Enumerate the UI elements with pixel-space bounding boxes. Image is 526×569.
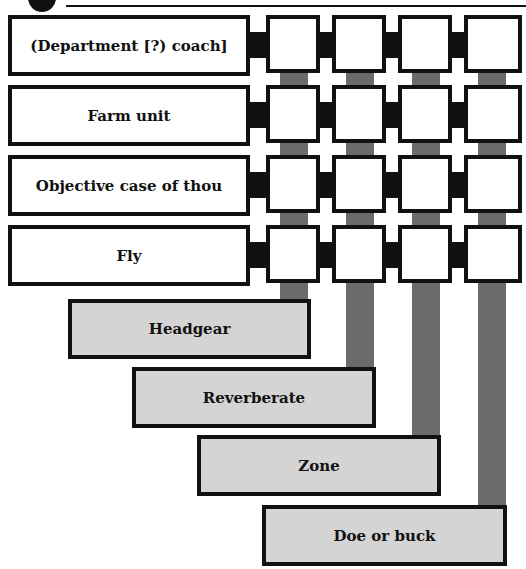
across-clue-2: Farm unit: [8, 85, 250, 146]
grid-cell-1-2[interactable]: [332, 15, 386, 73]
across-clue-4: Fly: [8, 225, 250, 286]
down-clue-label: Reverberate: [203, 389, 305, 407]
across-clue-label: Fly: [116, 247, 141, 265]
header-rule: [66, 5, 526, 7]
grid-cell-2-3[interactable]: [398, 85, 452, 143]
header-circle-icon: [28, 0, 56, 12]
across-clue-1: (Department [?) coach]: [8, 15, 250, 76]
across-clue-3: Objective case of thou: [8, 155, 250, 216]
across-clue-label: Farm unit: [88, 107, 171, 125]
grid-cell-4-3[interactable]: [398, 225, 452, 283]
row-connector: [248, 172, 268, 198]
row-connector: [248, 32, 268, 58]
grid-cell-3-3[interactable]: [398, 155, 452, 213]
grid-cell-1-1[interactable]: [266, 15, 320, 73]
down-clue-1: Headgear: [68, 299, 311, 359]
down-clue-3: Zone: [197, 435, 441, 496]
row-connector: [248, 242, 268, 268]
grid-cell-3-1[interactable]: [266, 155, 320, 213]
down-clue-label: Zone: [298, 457, 339, 475]
down-clue-2: Reverberate: [132, 367, 376, 428]
across-clue-label: (Department [?) coach]: [30, 37, 227, 55]
grid-cell-3-4[interactable]: [464, 155, 522, 213]
grid-cell-2-4[interactable]: [464, 85, 522, 143]
grid-cell-4-1[interactable]: [266, 225, 320, 283]
grid-cell-4-4[interactable]: [464, 225, 522, 283]
grid-cell-4-2[interactable]: [332, 225, 386, 283]
grid-cell-2-2[interactable]: [332, 85, 386, 143]
row-connector: [248, 102, 268, 128]
grid-cell-2-1[interactable]: [266, 85, 320, 143]
grid-cell-1-3[interactable]: [398, 15, 452, 73]
grid-cell-3-2[interactable]: [332, 155, 386, 213]
down-clue-label: Headgear: [149, 320, 231, 338]
down-clue-label: Doe or buck: [334, 527, 436, 545]
down-clue-4: Doe or buck: [262, 505, 507, 566]
across-clue-label: Objective case of thou: [36, 177, 222, 195]
grid-cell-1-4[interactable]: [464, 15, 522, 73]
